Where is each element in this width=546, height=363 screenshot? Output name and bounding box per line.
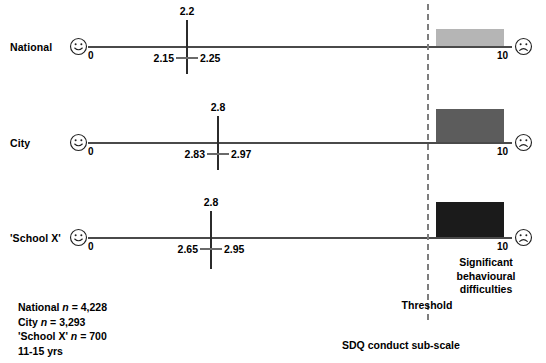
severity-band-school-x <box>436 202 504 237</box>
ci-low-city: 2.83 <box>149 148 205 160</box>
scale-row-national: National 0 10 <box>0 0 546 96</box>
band-label-line-1: Significant <box>432 256 540 270</box>
note-national: National n = 4,228 <box>18 300 107 315</box>
note-age-range: 11-15 yrs <box>18 344 107 359</box>
happy-face-icon <box>69 37 88 56</box>
sdq-conduct-subscale-figure: National 0 10 <box>0 0 546 363</box>
band-label-line-2: behavioural <box>432 270 540 284</box>
happy-face-icon <box>69 228 88 247</box>
sample-size-notes: National n = 4,228 City n = 3,293 'Schoo… <box>18 300 107 358</box>
x-axis-caption: SDQ conduct sub-scale <box>342 339 460 351</box>
mean-tick-city <box>207 153 229 155</box>
mean-value-school-x: 2.8 <box>181 196 241 208</box>
ci-low-national: 2.15 <box>118 52 174 64</box>
mean-tick-national <box>176 57 198 59</box>
mean-value-national: 2.2 <box>157 5 217 17</box>
happy-face-icon <box>69 133 88 152</box>
ci-high-school-x: 2.95 <box>224 243 280 255</box>
severity-band-national <box>436 29 504 46</box>
note-city-value: = 3,293 <box>47 316 85 328</box>
severity-band-city <box>436 109 504 142</box>
note-national-value: = 4,228 <box>69 301 107 313</box>
note-school-prefix: 'School X' <box>18 330 71 342</box>
ci-low-school-x: 2.65 <box>142 243 198 255</box>
axis-max-label-national: 10 <box>497 50 508 61</box>
sad-face-icon <box>514 37 533 56</box>
axis-line-city <box>88 142 512 144</box>
sad-face-icon <box>514 228 533 247</box>
axis-max-label-city: 10 <box>497 146 508 157</box>
mean-marker-school-x <box>210 211 212 269</box>
sad-face-icon <box>514 133 533 152</box>
mean-marker-national <box>186 20 188 74</box>
note-city: City n = 3,293 <box>18 315 107 330</box>
note-school-x: 'School X' n = 700 <box>18 329 107 344</box>
axis-line-school-x <box>88 237 512 239</box>
axis-max-label-school-x: 10 <box>497 241 508 252</box>
mean-value-city: 2.8 <box>188 101 248 113</box>
axis-line-national <box>88 46 512 48</box>
ci-high-city: 2.97 <box>231 148 287 160</box>
significant-difficulties-label: Significant behavioural difficulties <box>432 256 540 297</box>
mean-marker-city <box>217 116 219 170</box>
threshold-label: Threshold <box>380 299 474 313</box>
scale-row-city: City 0 10 2.8 2.83 2.97 <box>0 96 546 191</box>
note-school-value: = 700 <box>77 330 107 342</box>
axis-min-label-school-x: 0 <box>88 241 94 252</box>
band-label-line-3: difficulties <box>432 283 540 297</box>
axis-min-label-city: 0 <box>88 146 94 157</box>
threshold-line <box>427 4 429 320</box>
ci-high-national: 2.25 <box>200 52 256 64</box>
note-city-prefix: City <box>18 316 41 328</box>
mean-tick-school-x <box>200 248 222 250</box>
note-national-prefix: National <box>18 301 62 313</box>
axis-min-label-national: 0 <box>88 50 94 61</box>
